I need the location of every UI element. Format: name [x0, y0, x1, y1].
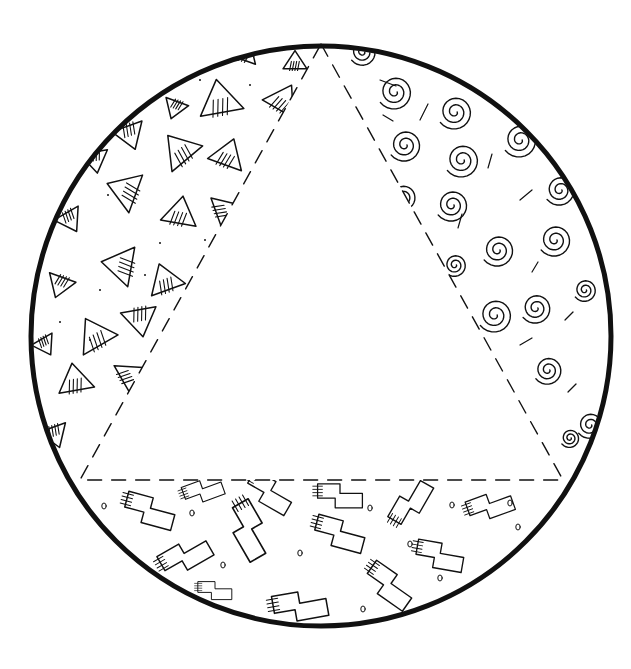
stepped-block-icon — [152, 531, 214, 582]
dot-mark — [144, 274, 146, 276]
tick-mark — [520, 190, 532, 200]
spiral-icon — [440, 98, 470, 129]
small-oval-mark — [408, 541, 412, 547]
tick-mark — [532, 262, 538, 272]
hatched-triangle-icon — [54, 360, 95, 396]
dot-mark — [204, 239, 206, 241]
small-oval-mark — [361, 606, 365, 612]
stepped-block-icon — [117, 490, 178, 531]
spiral-icon — [541, 227, 569, 256]
spiral-icon — [380, 78, 410, 109]
stepped-block-icon — [307, 513, 368, 554]
dot-mark — [89, 339, 91, 341]
stepped-block-icon — [313, 484, 363, 508]
spiral-icon — [445, 256, 465, 276]
tick-mark — [568, 384, 576, 392]
small-oval-mark — [102, 503, 106, 509]
dot-mark — [59, 321, 61, 323]
hatched-triangle-icon — [98, 242, 138, 287]
stepped-block-icon — [461, 487, 516, 527]
hatched-triangle-icon — [120, 304, 161, 340]
dot-mark — [99, 289, 101, 291]
stepped-block-icon — [385, 475, 433, 533]
tick-mark — [383, 115, 393, 121]
spiral-icon — [495, 86, 515, 107]
hatched-triangle-icon — [160, 193, 201, 229]
block-pattern-region — [102, 467, 520, 625]
stepped-block-icon — [219, 494, 276, 563]
spiral-icon — [480, 301, 510, 332]
spiral-icon — [575, 281, 595, 302]
small-oval-mark — [438, 575, 442, 581]
spiral-icon — [352, 41, 375, 65]
hatched-triangle-icon — [160, 96, 189, 123]
tick-mark — [458, 214, 462, 228]
empty-center-area — [80, 44, 563, 480]
dot-mark — [159, 242, 161, 244]
tick-mark — [420, 104, 428, 120]
spiral-icon — [484, 237, 512, 266]
hatched-triangle-icon — [30, 332, 61, 361]
spiral-icon — [438, 192, 466, 221]
spiral-icon — [505, 126, 535, 157]
dot-mark — [107, 194, 109, 196]
stepped-block-icon — [409, 538, 465, 572]
hatched-triangle-icon — [207, 133, 251, 173]
stepped-block-icon — [357, 557, 418, 611]
spiral-icon — [523, 296, 550, 323]
hatched-triangle-icon — [42, 271, 76, 302]
hatched-triangle-icon — [100, 165, 145, 214]
hatched-triangle-icon — [283, 51, 307, 71]
hatched-triangle-icon — [152, 123, 204, 174]
small-oval-mark — [298, 550, 302, 556]
spiral-icon — [536, 359, 561, 385]
small-oval-mark — [516, 524, 520, 530]
tick-mark — [565, 312, 573, 320]
small-oval-mark — [190, 510, 194, 516]
hatched-triangle-icon — [68, 309, 119, 358]
spiral-icon — [447, 146, 477, 177]
hatched-triangle-icon — [111, 119, 150, 155]
dot-mark — [249, 84, 251, 86]
hatched-triangle-icon — [142, 258, 186, 298]
tick-mark — [520, 338, 532, 345]
stepped-block-icon — [266, 587, 329, 625]
tick-mark — [488, 154, 492, 168]
drawing-canvas — [0, 0, 631, 669]
dot-mark — [199, 79, 201, 81]
spiral-icon — [562, 430, 579, 447]
circle-triangle-illustration — [0, 0, 631, 669]
small-oval-mark — [368, 505, 372, 511]
small-oval-mark — [450, 502, 454, 508]
spiral-icon — [391, 132, 419, 161]
small-oval-mark — [508, 500, 512, 506]
hatched-triangle-icon — [195, 76, 245, 120]
small-oval-mark — [221, 562, 225, 568]
